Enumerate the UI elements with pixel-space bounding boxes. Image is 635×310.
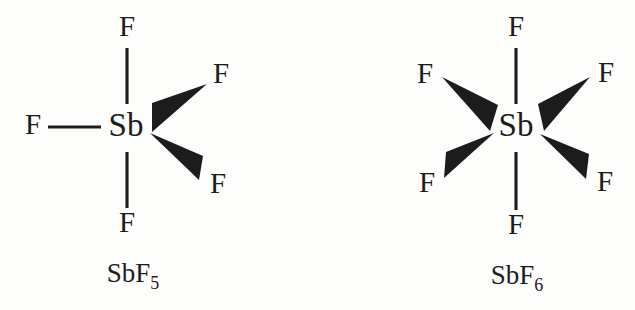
bond-wedge-upper-left	[442, 77, 498, 131]
bond-wedge-lower-right	[540, 134, 589, 179]
atom-label-f-bottom-2: F	[508, 208, 524, 240]
structure-sbf5: F F F F F Sb SbF5	[25, 10, 229, 293]
caption-sbf6-main: SbF	[491, 260, 535, 290]
atom-label-f-upper-right: F	[213, 57, 229, 89]
atom-label-f-upper-right-2: F	[598, 56, 614, 88]
atom-label-sb-center-2: Sb	[499, 107, 534, 143]
bond-wedge-upper-right-2	[538, 77, 590, 131]
bond-wedge-lower-left	[444, 133, 494, 178]
structures-canvas: F F F F F Sb SbF5 F	[0, 0, 635, 310]
caption-sbf5-subscript: 5	[150, 273, 159, 293]
bond-wedge-lower-right	[150, 133, 203, 180]
atom-label-f-top-2: F	[508, 10, 524, 42]
caption-sbf6: SbF6	[491, 260, 544, 295]
caption-sbf5: SbF5	[107, 258, 160, 293]
atom-label-f-lower-right: F	[210, 167, 226, 199]
atom-label-f-left: F	[25, 108, 41, 140]
atom-label-sb-center: Sb	[109, 107, 144, 143]
atom-label-f-lower-left: F	[419, 166, 435, 198]
atom-label-f-lower-right: F	[597, 165, 613, 197]
caption-sbf5-main: SbF	[107, 258, 151, 288]
structure-sbf6: F F F F F F Sb SbF6	[417, 10, 614, 295]
atom-label-f-upper-left: F	[417, 57, 433, 89]
atom-label-f-bottom: F	[119, 206, 135, 238]
atom-label-f-top: F	[119, 10, 135, 42]
bond-wedge-upper-right	[152, 84, 207, 132]
chemical-structure-figure: F F F F F Sb SbF5 F	[0, 0, 635, 310]
caption-sbf6-subscript: 6	[534, 275, 543, 295]
